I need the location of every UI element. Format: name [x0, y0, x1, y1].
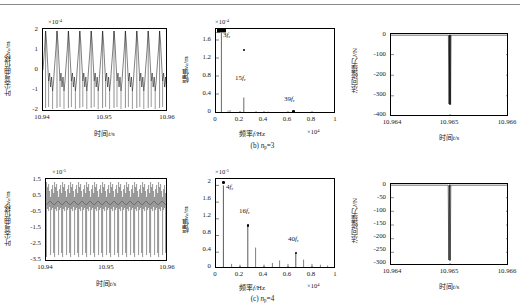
- axis-exponent-y-c-time: ×10-5: [52, 168, 66, 175]
- ytick-b-spectrum-4: 0: [189, 108, 211, 115]
- xtick-b-spectrum-3: 0.6: [277, 116, 297, 123]
- xtick-c-spectrum-1: 0.2: [229, 271, 249, 278]
- xtick-c-time-1: 10.95: [88, 264, 124, 271]
- axis-exponent-x-b-spectrum: ×104: [307, 128, 319, 135]
- ytick-b-time-1: 1: [16, 46, 38, 53]
- subfigure-caption-c: (c) np=4: [175, 295, 350, 303]
- xtick-b-time-0: 10.94: [24, 114, 60, 121]
- plot-area-b-force: [390, 33, 508, 116]
- axis-label-y-b-time: 叶尖弯曲位移vz/m: [3, 26, 12, 112]
- figure-row-b: 叶尖弯曲位移vz/m ×10-4 2 1 0 -1 -2: [0, 8, 520, 158]
- ytick-c-time-3: -1.5: [13, 224, 41, 231]
- panel-c-force: 法向碰撞力J/N 0 -50 -100 -150 -200 -250 -300: [350, 158, 520, 308]
- axis-label-x-c-spectrum: 频率f/Hz: [207, 282, 297, 292]
- figure-row-c: 叶尖弯曲位移vz/m ×10-5 1.5 0.5 -0.5 -1.5 -2.5 …: [0, 158, 520, 308]
- ytick-b-spectrum-3: 0.4: [189, 90, 211, 97]
- ytick-c-time-5: -3.5: [13, 256, 41, 263]
- ytick-c-spectrum-4: 0.4: [189, 246, 211, 253]
- ytick-b-spectrum-2: 0.8: [189, 72, 211, 79]
- ytick-b-force-3: -300: [360, 91, 386, 98]
- axis-exponent-x-c-spectrum: ×104: [307, 282, 319, 289]
- peak-label-c-0: 4fr: [226, 184, 233, 192]
- xtick-c-spectrum-2: 0.4: [253, 271, 273, 278]
- peak-marker-c-0: [222, 181, 225, 184]
- ytick-c-force-6: -300: [360, 259, 386, 266]
- panel-c-spectrum: 幅值vz/m ×10-5 2 1.6 1.2 0.8 0.4 0: [175, 158, 350, 308]
- ytick-b-time-2: 0: [16, 66, 38, 73]
- axis-label-x-c-time: 时间t/s: [45, 278, 167, 288]
- xtick-c-force-2: 10.966: [487, 268, 520, 275]
- page-separator-rule: [0, 4, 520, 5]
- ytick-c-spectrum-1: 1.6: [189, 195, 211, 202]
- axis-label-y-b-force: 法向碰撞力J/N: [350, 34, 359, 106]
- ytick-c-spectrum-3: 0.8: [189, 229, 211, 236]
- ytick-c-force-0: 0: [360, 181, 386, 188]
- panel-b-time-waveform: 叶尖弯曲位移vz/m ×10-4 2 1 0 -1 -2: [0, 8, 175, 158]
- ytick-b-force-1: -100: [360, 51, 386, 58]
- peak-marker-b-0: [219, 28, 222, 31]
- xtick-b-spectrum-1: 0.2: [229, 116, 249, 123]
- xtick-c-spectrum-0: 0: [205, 271, 225, 278]
- axis-label-y-c-time: 叶尖弯曲位移vz/m: [3, 176, 12, 262]
- plot-area-c-time: [45, 178, 167, 261]
- ytick-c-time-4: -2.5: [13, 240, 41, 247]
- peak-label-b-1: 15fr: [235, 75, 246, 83]
- ytick-c-force-2: -100: [360, 207, 386, 214]
- axis-exponent-y-b-spectrum: ×10-4: [215, 18, 229, 25]
- xtick-b-spectrum-2: 0.4: [253, 116, 273, 123]
- xtick-b-spectrum-5: 1: [325, 116, 345, 123]
- ytick-c-time-0: 1.5: [13, 176, 41, 183]
- ytick-b-time-3: -1: [16, 86, 38, 93]
- peak-label-c-1: 16fr: [239, 208, 250, 216]
- ytick-c-spectrum-5: 0: [189, 263, 211, 270]
- xtick-c-force-1: 10.965: [429, 268, 469, 275]
- ytick-b-time-0: 2: [16, 26, 38, 33]
- ytick-c-time-1: 0.5: [13, 192, 41, 199]
- panel-b-spectrum: 幅值vz/m ×10-4 1.6 1.2 0.8 0.4 0: [175, 8, 350, 158]
- ytick-b-force-4: -400: [360, 111, 386, 118]
- subfigure-caption-b: (b) np=3: [175, 142, 350, 150]
- peak-label-b-2: 39fr: [284, 96, 295, 104]
- axis-label-x-b-spectrum: 频率f/Hz: [207, 128, 297, 138]
- ytick-b-force-0: 0: [360, 31, 386, 38]
- plot-area-b-spectrum: [215, 28, 335, 113]
- ytick-c-spectrum-0: 2: [189, 178, 211, 185]
- xtick-c-spectrum-3: 0.6: [277, 271, 297, 278]
- xtick-c-time-0: 10.94: [27, 264, 63, 271]
- xtick-b-spectrum-0: 0: [205, 116, 225, 123]
- plot-area-c-force: [390, 183, 508, 265]
- xtick-b-spectrum-4: 0.8: [301, 116, 321, 123]
- axis-exponent-y-c-spectrum: ×10-5: [215, 168, 229, 175]
- xtick-b-time-1: 10.95: [86, 114, 122, 121]
- ytick-c-time-2: -0.5: [13, 208, 41, 215]
- figure-container: 叶尖弯曲位移vz/m ×10-4 2 1 0 -1 -2: [0, 8, 520, 308]
- plot-area-b-time: [42, 28, 167, 111]
- axis-label-x-b-time: 时间t/s: [42, 128, 167, 138]
- ytick-c-force-4: -200: [360, 233, 386, 240]
- peak-marker-c-1: [247, 224, 250, 227]
- xtick-b-force-0: 10.964: [372, 119, 412, 126]
- axis-label-x-c-force: 时间t/s: [390, 281, 508, 291]
- ytick-b-spectrum-0: 1.6: [189, 36, 211, 43]
- xtick-c-spectrum-5: 1: [325, 271, 345, 278]
- axis-label-y-c-force: 法向碰撞力J/N: [350, 184, 359, 256]
- ytick-b-spectrum-1: 1.2: [189, 54, 211, 61]
- peak-label-c-2: 40fr: [288, 236, 299, 244]
- xtick-c-force-0: 10.964: [372, 268, 412, 275]
- xtick-b-force-2: 10.966: [487, 119, 520, 126]
- ytick-b-force-2: -200: [360, 71, 386, 78]
- ytick-c-force-1: -50: [360, 194, 386, 201]
- peak-label-b-0: 3fr: [223, 32, 230, 40]
- xtick-b-force-1: 10.965: [429, 119, 469, 126]
- axis-exponent-y-b-time: ×10-4: [48, 18, 62, 25]
- panel-c-time-waveform: 叶尖弯曲位移vz/m ×10-5 1.5 0.5 -0.5 -1.5 -2.5 …: [0, 158, 175, 308]
- ytick-b-time-4: -2: [16, 106, 38, 113]
- ytick-c-force-3: -150: [360, 220, 386, 227]
- panel-b-force: 法向碰撞力J/N 0 -100 -200 -300 -400: [350, 8, 520, 158]
- xtick-c-spectrum-4: 0.8: [301, 271, 321, 278]
- ytick-c-spectrum-2: 1.2: [189, 212, 211, 219]
- ytick-c-force-5: -250: [360, 246, 386, 253]
- axis-label-x-b-force: 时间t/s: [390, 132, 508, 142]
